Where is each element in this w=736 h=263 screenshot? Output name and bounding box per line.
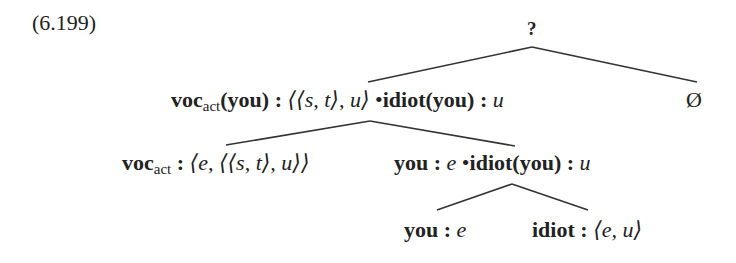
idiot-term: idiot(you): [470, 150, 562, 175]
voc-subscript: act: [203, 98, 220, 114]
voc-head: voc: [171, 87, 203, 112]
type-expression: ⟨e, u⟩: [593, 217, 642, 242]
type-expression: ⟨e, ⟨⟨s, t⟩, u⟩⟩: [190, 150, 310, 175]
node-left-right: you : e •idiot(you) : u: [394, 150, 591, 176]
colon: :: [269, 87, 287, 112]
node-left-left: vocact : ⟨e, ⟨⟨s, t⟩, u⟩⟩: [122, 150, 310, 176]
colon: :: [561, 150, 579, 175]
voc-subscript: act: [154, 161, 171, 177]
node-left: vocact(you) : ⟨⟨s, t⟩, u⟩ •idiot(you) : …: [171, 87, 504, 113]
colon: :: [438, 217, 456, 242]
type-u: u: [493, 87, 504, 112]
colon: :: [428, 150, 446, 175]
type-e: e: [447, 150, 457, 175]
node-right-empty: Ø: [686, 87, 702, 113]
colon: :: [575, 217, 593, 242]
voc-arg: (you): [220, 87, 269, 112]
type-expression: ⟨⟨s, t⟩, u⟩: [287, 87, 369, 112]
root-node: ?: [527, 16, 537, 42]
branch-left-right: [370, 121, 515, 146]
you-term: you: [404, 217, 438, 242]
bullet: •: [375, 87, 383, 112]
branch-lr-left: [437, 184, 512, 210]
branch-root-left: [368, 47, 532, 82]
idiot-term: idiot(you): [383, 87, 475, 112]
bullet: •: [462, 150, 470, 175]
branch-lr-right: [512, 184, 588, 210]
type-e: e: [457, 217, 467, 242]
voc-head: voc: [122, 150, 154, 175]
branch-left-left: [226, 121, 370, 145]
node-lr-right: idiot : ⟨e, u⟩: [532, 217, 642, 243]
type-u: u: [580, 150, 591, 175]
node-lr-left: you : e: [404, 217, 466, 243]
colon: :: [171, 150, 189, 175]
colon: :: [474, 87, 492, 112]
branch-root-right: [532, 47, 697, 82]
you-term: you: [394, 150, 428, 175]
idiot-term: idiot: [532, 217, 575, 242]
